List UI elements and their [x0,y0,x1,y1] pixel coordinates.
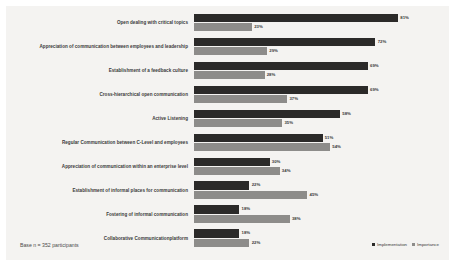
chart-bars: 22%45% [194,180,446,202]
chart-bar-value-label: 81% [398,14,409,22]
chart-container: Open dealing with critical topics81%23%A… [6,6,449,260]
chart-bar-value-label: 29% [267,47,278,55]
chart-bar-value-label: 34% [280,167,291,175]
chart-bar-track: 45% [194,191,446,199]
chart-bar-track: 72% [194,38,446,46]
chart-bars: 69%28% [194,60,446,82]
chart-bar[interactable] [194,167,280,175]
chart-bar-track: 69% [194,86,446,94]
chart-bar-track: 18% [194,229,446,237]
chart-bar-group: Establishment of informal places for com… [6,180,449,202]
chart-bar-track: 22% [194,181,446,189]
chart-bars: 69%37% [194,84,446,106]
chart-bar-track: 54% [194,143,446,151]
chart-bar-track: 18% [194,205,446,213]
chart-bar-value-label: 23% [252,23,263,31]
chart-bar-track: 37% [194,95,446,103]
chart-bar-track: 29% [194,47,446,55]
legend-label: Importance [417,242,439,247]
chart-bar-track: 69% [194,62,446,70]
chart-bar[interactable] [194,239,249,247]
chart-bar-value-label: 18% [239,205,250,213]
chart-bars: 30%34% [194,156,446,178]
chart-bar[interactable] [194,158,270,166]
chart-bar-value-label: 58% [340,110,351,118]
chart-bar[interactable] [194,229,239,237]
chart-bars: 81%23% [194,12,446,34]
chart-bar-value-label: 18% [239,229,250,237]
chart-bars: 51%54% [194,132,446,154]
chart-category-label: Active Listening [152,108,188,130]
chart-bar-track: 81% [194,14,446,22]
chart-bar[interactable] [194,86,368,94]
chart-bar[interactable] [194,38,375,46]
chart-bar[interactable] [194,71,265,79]
chart-bar[interactable] [194,62,368,70]
chart-bar[interactable] [194,215,290,223]
chart-bar-group: Establishment of a feedback culture69%28… [6,60,449,82]
legend-swatch-icon [412,243,415,246]
chart-bars: 72%29% [194,36,446,58]
chart-bar[interactable] [194,95,287,103]
chart-bar-value-label: 69% [368,62,379,70]
chart-bar-track: 35% [194,119,446,127]
chart-plot-area: Open dealing with critical topics81%23%A… [6,12,449,252]
chart-bar[interactable] [194,14,398,22]
chart-bar-group: Active Listening58%35% [6,108,449,130]
chart-bar[interactable] [194,47,267,55]
chart-bar-value-label: 22% [249,239,260,247]
chart-legend: Implementation Importance [372,242,439,247]
chart-bar-group: Regular Communication between C-Level an… [6,132,449,154]
chart-bar[interactable] [194,23,252,31]
chart-bar[interactable] [194,143,330,151]
chart-bar-track: 28% [194,71,446,79]
chart-bar[interactable] [194,205,239,213]
chart-bar-track: 51% [194,134,446,142]
chart-bar-value-label: 35% [282,119,293,127]
chart-category-label: Regular Communication between C-Level an… [62,132,188,154]
chart-bar[interactable] [194,134,323,142]
chart-bar-value-label: 28% [265,71,276,79]
chart-category-label: Fostering of informal communication [106,204,188,226]
chart-bar-value-label: 54% [330,143,341,151]
chart-bar-group: Appreciation of communication between em… [6,36,449,58]
legend-label: Implementation [377,242,407,247]
chart-bar-group: Appreciation of communication within an … [6,156,449,178]
chart-bar-value-label: 30% [270,158,281,166]
chart-bars: 18%38% [194,204,446,226]
chart-bar[interactable] [194,119,282,127]
chart-bar[interactable] [194,191,307,199]
chart-category-label: Appreciation of communication between em… [39,36,188,58]
chart-bar-track: 34% [194,167,446,175]
chart-bar[interactable] [194,181,249,189]
chart-bar-group: Cross-hierarchical open communication69%… [6,84,449,106]
chart-bar-value-label: 37% [287,95,298,103]
legend-item-implementation[interactable]: Implementation [372,242,407,247]
chart-bar-value-label: 45% [307,191,318,199]
chart-category-label: Open dealing with critical topics [117,12,188,34]
chart-bar-group: Fostering of informal communication18%38… [6,204,449,226]
chart-bar-track: 58% [194,110,446,118]
chart-bar-track: 38% [194,215,446,223]
chart-category-label: Establishment of informal places for com… [72,180,188,202]
chart-bar-value-label: 38% [290,215,301,223]
legend-item-importance[interactable]: Importance [412,242,439,247]
chart-bar-value-label: 69% [368,86,379,94]
chart-category-label: Cross-hierarchical open communication [99,84,188,106]
chart-bar-track: 23% [194,23,446,31]
chart-category-label: Appreciation of communication within an … [62,156,188,178]
chart-bar-value-label: 51% [323,134,334,142]
legend-swatch-icon [372,243,375,246]
chart-category-label: Collaborative Communicationplatform [104,228,188,250]
chart-bar-value-label: 22% [249,181,260,189]
chart-bar-track: 30% [194,158,446,166]
chart-footnote: Base n = 352 participants [20,242,79,248]
chart-category-label: Establishment of a feedback culture [109,60,188,82]
chart-bar-value-label: 72% [375,38,386,46]
chart-bar[interactable] [194,110,340,118]
chart-bars: 58%35% [194,108,446,130]
chart-bar-group: Open dealing with critical topics81%23% [6,12,449,34]
